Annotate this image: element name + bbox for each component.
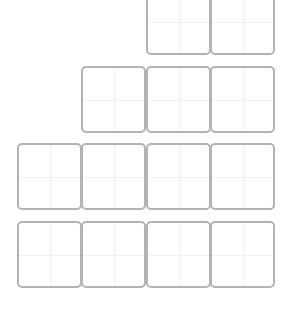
grid-cell[interactable] — [81, 66, 146, 133]
grid-cell[interactable] — [210, 221, 275, 288]
grid-cell[interactable] — [146, 66, 211, 133]
grid-cell[interactable] — [146, 0, 211, 55]
grid-cell[interactable] — [81, 221, 146, 288]
grid-cell[interactable] — [17, 143, 82, 210]
grid-cell[interactable] — [146, 143, 211, 210]
grid-cell[interactable] — [210, 66, 275, 133]
grid-cell[interactable] — [210, 143, 275, 210]
grid-cell[interactable] — [210, 0, 275, 55]
tile-grid-board — [0, 0, 292, 317]
grid-cell[interactable] — [146, 221, 211, 288]
grid-cell[interactable] — [17, 221, 82, 288]
grid-cell[interactable] — [81, 143, 146, 210]
